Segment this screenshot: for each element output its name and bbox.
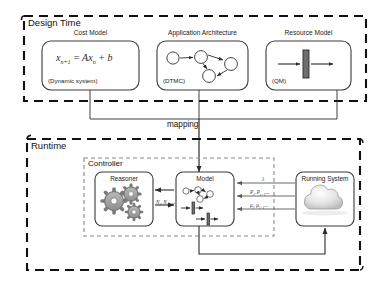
application-architecture-title: Application Architecture <box>152 30 253 37</box>
edge-label-service-rates: μi, μi+1... <box>250 203 268 211</box>
mapping-connector <box>90 90 337 172</box>
mapping-label: mapping <box>167 121 198 129</box>
edge-label-arrival-rate: λ <box>262 177 264 182</box>
p-tail: ... <box>266 189 270 195</box>
controller-label: Controller <box>88 160 123 168</box>
lambda-base: λ <box>262 176 264 182</box>
n-tail: ... <box>172 199 176 205</box>
running-system-title: Running System <box>294 176 356 182</box>
resource-model-title: Resource Model <box>266 30 351 37</box>
formula-tail: + b <box>96 52 113 63</box>
cost-model-caption: (Dynamic system) <box>48 78 98 84</box>
edge-label-probabilities: Pi, Pi+1... <box>250 190 269 198</box>
cost-model-title: Cost Model <box>42 30 139 37</box>
edge-label-reasoner-to-model: Ni, Ni+1... <box>156 200 176 208</box>
cost-model-formula: xn+1 = Axn + b <box>56 53 112 65</box>
application-architecture-caption: (DTMC) <box>163 78 185 84</box>
mu-tail: ... <box>264 202 268 208</box>
diagram-canvas: Design Time Cost Model xn+1 = Axn + b (D… <box>0 0 388 285</box>
formula-mid: = Ax <box>71 52 93 63</box>
adaptation-feedback-edge <box>199 226 325 254</box>
runtime-title: Runtime <box>31 141 66 151</box>
resource-model-caption: (QM) <box>272 78 286 84</box>
design-time-title: Design Time <box>28 18 81 28</box>
model-title: Model <box>176 176 234 182</box>
reasoner-title: Reasoner <box>95 176 153 182</box>
formula-lhs-sub: n+1 <box>60 59 70 65</box>
